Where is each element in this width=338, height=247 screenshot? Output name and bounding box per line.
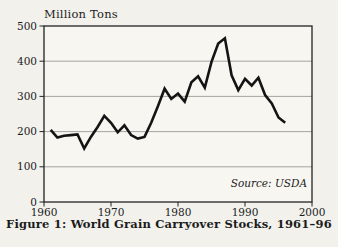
y-tick-label-100: 100 bbox=[17, 160, 37, 172]
figure-caption: Figure 1: World Grain Carryover Stocks, … bbox=[0, 217, 338, 231]
x-tick-label-1970: 1970 bbox=[98, 206, 125, 218]
y-tick-label-400: 400 bbox=[17, 55, 37, 67]
x-tick-label-2000: 2000 bbox=[299, 206, 326, 218]
plot-area bbox=[44, 26, 312, 202]
x-tick-label-1960: 1960 bbox=[31, 206, 58, 218]
y-tick-label-300: 300 bbox=[17, 90, 37, 102]
y-tick-label-200: 200 bbox=[17, 125, 37, 137]
source-credit: Source: USDA bbox=[231, 177, 307, 189]
line-chart: 010020030040050019601970198019902000 bbox=[0, 0, 338, 247]
x-tick-label-1990: 1990 bbox=[232, 206, 259, 218]
grain-stocks-figure: Million Tons 010020030040050019601970198… bbox=[0, 0, 338, 247]
y-tick-label-500: 500 bbox=[17, 20, 37, 32]
x-tick-label-1980: 1980 bbox=[165, 206, 192, 218]
